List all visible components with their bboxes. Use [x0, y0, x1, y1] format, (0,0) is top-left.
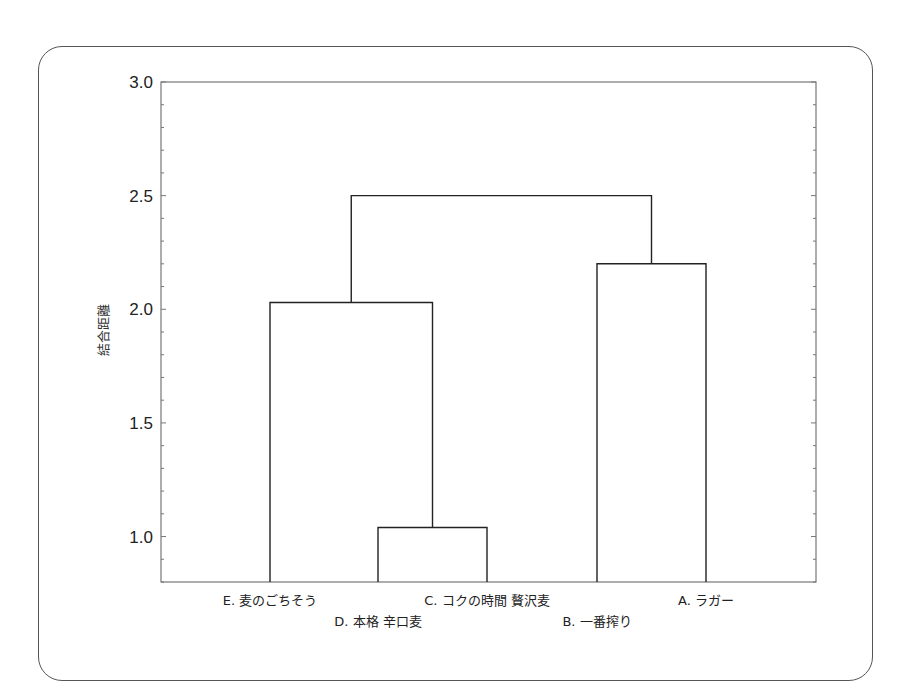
y-tick-label: 2.5 — [129, 187, 153, 206]
leaf-label: E. 麦のごちそう — [223, 593, 317, 608]
dendrogram-chart: 1.01.52.02.53.0 E. 麦のごちそうD. 本格 辛口麦C. コクの… — [0, 0, 914, 694]
leaf-label: A. ラガー — [678, 593, 734, 608]
leaf-label: B. 一番搾り — [562, 614, 631, 629]
dendrogram-links — [270, 196, 706, 582]
plot-border — [161, 82, 816, 582]
leaf-labels: E. 麦のごちそうD. 本格 辛口麦C. コクの時間 贅沢麦B. 一番搾りA. … — [223, 593, 734, 629]
y-tick-label: 3.0 — [129, 73, 153, 92]
y-tick-label: 1.5 — [129, 414, 153, 433]
plot-area — [161, 82, 816, 582]
dendrogram-link — [597, 264, 706, 582]
leaf-label: D. 本格 辛口麦 — [334, 614, 421, 629]
y-axis-tick-labels: 1.01.52.02.53.0 — [129, 73, 153, 547]
dendrogram-link — [378, 527, 487, 582]
dendrogram-link — [270, 302, 433, 582]
y-tick-label: 2.0 — [129, 300, 153, 319]
y-tick-label: 1.0 — [129, 528, 153, 547]
y-axis-label: 結合距離 — [96, 304, 111, 356]
y-axis-ticks — [161, 82, 816, 582]
dendrogram-link — [351, 196, 651, 303]
leaf-label: C. コクの時間 贅沢麦 — [424, 593, 549, 608]
